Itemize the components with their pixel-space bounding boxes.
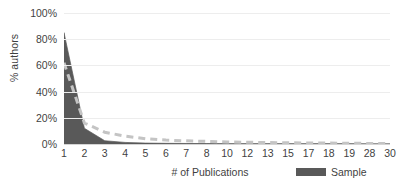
x-axis-tick-label: 28 [364,147,376,159]
legend-label-sample: Sample [331,166,367,178]
x-axis-tick-label: 13 [262,147,274,159]
series-sample-area [64,33,390,144]
x-axis-tick-label: 1 [61,147,67,159]
gridline [64,39,390,40]
x-axis-tick-label: 15 [282,147,294,159]
x-axis-title: # of Publications [140,166,280,178]
y-axis-tick-label: 40% [36,87,57,98]
y-axis-tick-label: 0% [42,139,57,150]
x-axis-tick-labels: 12345678101213151718192830 [64,147,390,163]
legend-swatch-sample [296,168,326,176]
x-axis-tick-label: 3 [102,147,108,159]
x-axis-tick-label: 30 [384,147,396,159]
y-axis-tick-labels: 0%20%40%60%80%100% [8,0,60,150]
x-axis-tick-label: 18 [323,147,335,159]
x-axis-tick-label: 12 [242,147,254,159]
y-axis-tick-label: 20% [36,113,57,124]
x-axis-tick-label: 19 [343,147,355,159]
x-axis-tick-label: 4 [122,147,128,159]
gridline [64,92,390,93]
x-axis-tick-label: 2 [81,147,87,159]
gridline [64,118,390,119]
x-axis-tick-label: 7 [183,147,189,159]
gridline [64,65,390,66]
gridline [64,13,390,14]
x-axis-tick-label: 8 [204,147,210,159]
y-axis-tick-label: 60% [36,60,57,71]
plot-svg [64,13,390,144]
y-axis-tick-label: 80% [36,34,57,45]
plot-area [64,13,390,144]
chart-legend: Sample [296,166,367,178]
publications-distribution-chart: % authors 0%20%40%60%80%100% 12345678101… [0,0,397,196]
x-axis-tick-label: 5 [143,147,149,159]
y-axis-tick-label: 100% [30,8,57,19]
x-axis-line [64,144,390,145]
x-axis-tick-label: 17 [303,147,315,159]
x-axis-tick-label: 6 [163,147,169,159]
series-comparison-dashed-line [64,63,390,144]
x-axis-tick-label: 10 [221,147,233,159]
